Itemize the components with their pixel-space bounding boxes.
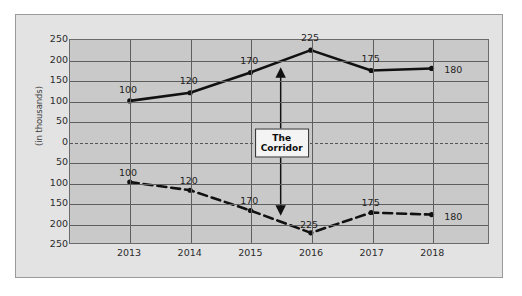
- data-label: 225: [301, 32, 319, 43]
- y-tick-label: 200: [34, 55, 68, 65]
- horizontal-gridline: [70, 204, 488, 205]
- horizontal-gridline: [70, 102, 488, 103]
- y-axis-tick-labels: 25020015010050050100150200250: [30, 15, 68, 277]
- x-tick-label: 2016: [289, 247, 333, 258]
- x-tick-label: 2013: [107, 247, 151, 258]
- x-tick-label: 2018: [410, 247, 454, 258]
- corridor-annotation-box: TheCorridor: [255, 128, 309, 157]
- data-label: 120: [180, 174, 198, 185]
- horizontal-gridline: [70, 184, 488, 185]
- horizontal-gridline: [70, 61, 488, 62]
- y-tick-label: 50: [34, 116, 68, 126]
- x-tick-label: 2014: [168, 247, 212, 258]
- x-tick-label: 2015: [228, 247, 272, 258]
- data-label: 100: [119, 166, 137, 177]
- data-label: 180: [444, 63, 462, 74]
- vertical-gridline: [373, 40, 374, 243]
- x-tick-label: 2017: [350, 247, 394, 258]
- data-label: 100: [119, 83, 137, 94]
- vertical-gridline: [312, 40, 313, 243]
- horizontal-gridline: [70, 81, 488, 82]
- horizontal-gridline: [70, 163, 488, 164]
- y-tick-label: 100: [34, 96, 68, 106]
- horizontal-gridline: [70, 225, 488, 226]
- y-tick-label: 100: [34, 178, 68, 188]
- data-label: 180: [444, 211, 462, 222]
- chart-screenshot: (in thousands) 2502001501005005010015020…: [0, 0, 522, 296]
- data-label: 175: [362, 52, 380, 63]
- y-tick-label: 250: [34, 239, 68, 249]
- y-tick-label: 50: [34, 157, 68, 167]
- corridor-label-line2: Corridor: [261, 143, 303, 154]
- corridor-label-line1: The: [261, 132, 303, 143]
- data-label: 120: [180, 75, 198, 86]
- y-tick-label: 150: [34, 198, 68, 208]
- vertical-gridline: [251, 40, 252, 243]
- plot-area: 100120170225175180100120170225175180TheC…: [69, 39, 489, 244]
- chart-panel: (in thousands) 2502001501005005010015020…: [15, 14, 503, 278]
- data-label: 225: [300, 218, 318, 229]
- data-label: 170: [240, 195, 258, 206]
- vertical-gridline: [433, 40, 434, 243]
- y-tick-label: 200: [34, 219, 68, 229]
- vertical-gridline: [191, 40, 192, 243]
- data-label: 170: [240, 54, 258, 65]
- y-tick-label: 250: [34, 34, 68, 44]
- y-tick-label: 150: [34, 75, 68, 85]
- data-label: 175: [362, 197, 380, 208]
- y-tick-label: 0: [34, 137, 68, 147]
- x-axis-tick-labels: 201320142015201620172018: [69, 247, 489, 265]
- vertical-gridline: [130, 40, 131, 243]
- horizontal-gridline: [70, 122, 488, 123]
